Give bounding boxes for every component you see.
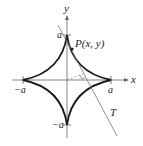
astroid-diagram: y x P(x, y) T a a −a −a <box>0 0 143 146</box>
a-right-label: a <box>108 84 113 95</box>
a-bottom-label: −a <box>52 119 64 130</box>
tangent-label: T <box>110 106 117 118</box>
right-angle-marker <box>80 75 85 79</box>
a-left-label: −a <box>14 84 26 95</box>
x-axis-label: x <box>130 73 136 85</box>
point-label: P(x, y) <box>74 37 105 50</box>
point-p <box>70 47 73 50</box>
a-top-label: a <box>57 29 62 40</box>
y-axis-label: y <box>63 2 69 14</box>
